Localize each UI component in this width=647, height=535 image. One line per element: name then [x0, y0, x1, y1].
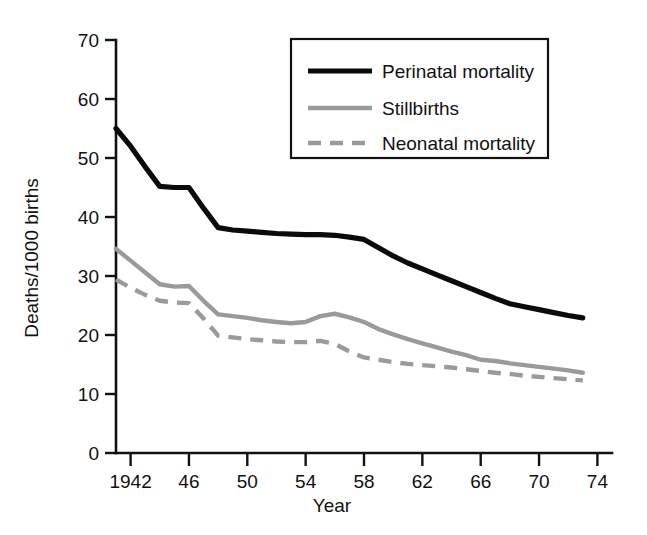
x-tick-label: 50: [237, 471, 258, 492]
legend: Perinatal mortality Stillbirths Neonatal…: [291, 39, 548, 158]
legend-label-neonatal: Neonatal mortality: [382, 133, 536, 154]
y-tick-label: 70: [78, 30, 99, 51]
x-tick-label: 62: [412, 471, 433, 492]
x-tick-label: 1942: [109, 471, 151, 492]
x-tick-label: 66: [470, 471, 491, 492]
chart-figure: 010203040506070 19424650545862667074 Yea…: [0, 0, 647, 535]
x-axis-ticks: 19424650545862667074: [109, 453, 608, 492]
y-tick-label: 0: [88, 443, 99, 464]
y-tick-label: 10: [78, 384, 99, 405]
legend-label-perinatal: Perinatal mortality: [382, 61, 535, 82]
data-series-group: [116, 129, 583, 381]
y-tick-label: 30: [78, 266, 99, 287]
y-tick-label: 50: [78, 148, 99, 169]
x-tick-label: 74: [587, 471, 609, 492]
y-axis-ticks: 010203040506070: [78, 30, 116, 464]
x-tick-label: 58: [353, 471, 374, 492]
line-chart: 010203040506070 19424650545862667074 Yea…: [0, 0, 647, 535]
x-axis-title: Year: [313, 495, 352, 516]
y-axis-title: Deaths/1000 births: [21, 178, 42, 338]
y-tick-label: 40: [78, 207, 99, 228]
x-tick-label: 54: [295, 471, 317, 492]
x-tick-label: 46: [178, 471, 199, 492]
y-tick-label: 60: [78, 89, 99, 110]
x-tick-label: 70: [528, 471, 549, 492]
legend-label-stillbirths: Stillbirths: [382, 98, 459, 119]
y-tick-label: 20: [78, 325, 99, 346]
series-line-stillbirths: [116, 249, 583, 373]
